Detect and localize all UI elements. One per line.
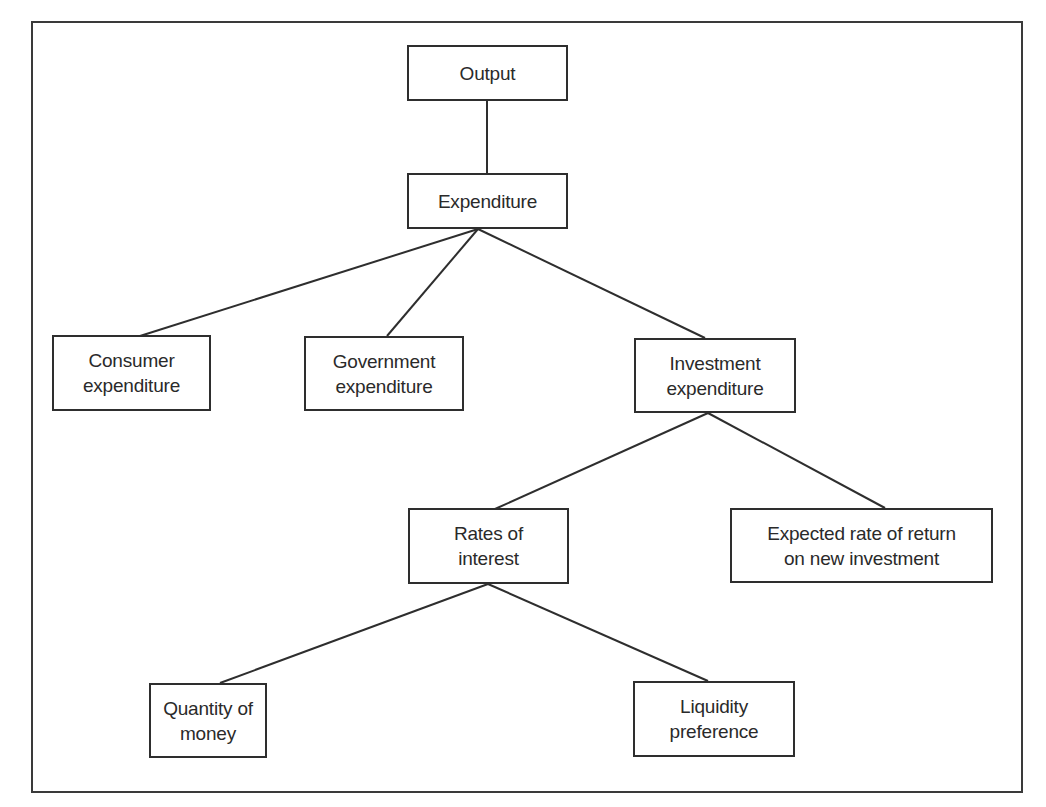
node-expected-label-line1: Expected rate of return	[767, 521, 956, 546]
node-investment-label-line2: expenditure	[666, 376, 763, 401]
node-output: Output	[407, 45, 568, 101]
edge-expenditure-to-consumer	[140, 229, 478, 336]
edge-investment-to-expected	[708, 413, 885, 508]
node-consumer-label-line1: Consumer	[88, 348, 174, 373]
node-government-label-line1: Government	[333, 349, 436, 374]
node-investment-label-line1: Investment	[670, 351, 761, 376]
edge-expenditure-to-government	[387, 229, 478, 336]
node-investment-expenditure: Investment expenditure	[634, 338, 796, 413]
node-expenditure-label: Expenditure	[438, 189, 537, 214]
node-consumer-label-line2: expenditure	[83, 373, 180, 398]
node-liquidity-label-line1: Liquidity	[680, 694, 748, 719]
node-government-label-line2: expenditure	[335, 374, 432, 399]
node-expected-label-line2: on new investment	[784, 546, 939, 571]
node-output-label: Output	[460, 61, 516, 86]
node-quantity-label-line1: Quantity of	[163, 696, 253, 721]
node-expected-rate-of-return: Expected rate of return on new investmen…	[730, 508, 993, 583]
edge-investment-to-rates	[495, 413, 708, 509]
node-liquidity-preference: Liquidity preference	[633, 681, 795, 757]
node-consumer-expenditure: Consumer expenditure	[52, 335, 211, 411]
node-liquidity-label-line2: preference	[670, 719, 759, 744]
edge-rates-to-liquidity	[488, 584, 708, 681]
edge-rates-to-quantity	[220, 584, 488, 683]
node-expenditure: Expenditure	[407, 173, 568, 229]
node-quantity-label-line2: money	[180, 721, 236, 746]
node-quantity-of-money: Quantity of money	[149, 683, 267, 758]
edge-expenditure-to-investment	[478, 229, 705, 338]
node-rates-label-line2: interest	[458, 546, 519, 571]
node-government-expenditure: Government expenditure	[304, 336, 464, 411]
node-rates-of-interest: Rates of interest	[408, 508, 569, 584]
node-rates-label-line1: Rates of	[454, 521, 523, 546]
